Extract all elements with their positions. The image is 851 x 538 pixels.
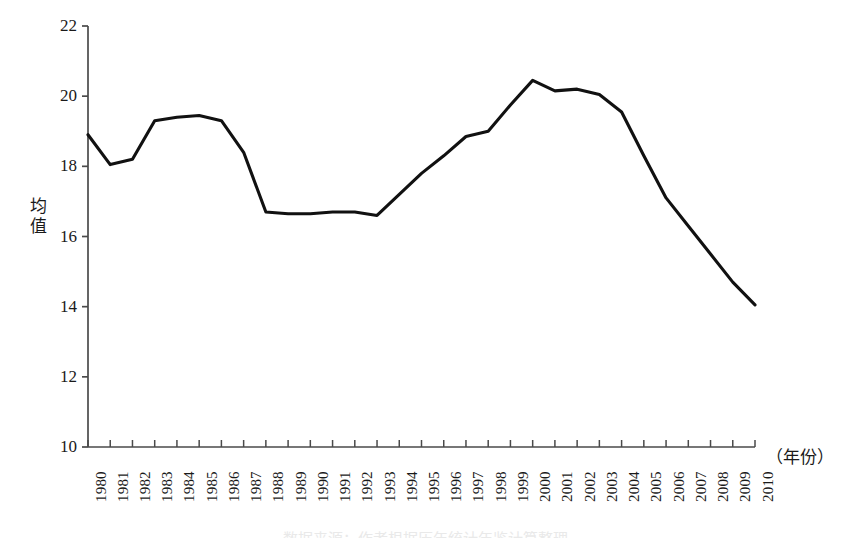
x-tick-label: 2002: [583, 471, 598, 502]
data-series-line: [88, 80, 755, 305]
x-tick-label: 1983: [160, 471, 175, 502]
x-tick-label: 1992: [360, 471, 375, 502]
figure-caption: 数据来源：作者根据历年统计年鉴计算整理: [0, 531, 851, 538]
x-tick-label: 1988: [271, 471, 286, 502]
x-axis-unit-label: （年份）: [766, 448, 834, 466]
x-tick-label: 2003: [605, 471, 620, 502]
y-tick-label: 14: [43, 298, 77, 315]
x-tick-label: 1995: [427, 471, 442, 502]
x-tick-label: 2000: [538, 471, 553, 502]
x-tick-label: 2001: [560, 471, 575, 502]
y-tick-label: 20: [43, 87, 77, 104]
x-tick-label: 2010: [761, 471, 776, 502]
x-tick-label: 1993: [383, 471, 398, 502]
x-tick-label: 1998: [494, 471, 509, 502]
chart-figure: 均 值 22201816141210 198019811982198319841…: [0, 0, 851, 538]
x-tick-label: 1986: [227, 471, 242, 502]
y-tick-label: 12: [43, 368, 77, 385]
x-tick-label: 1990: [316, 471, 331, 502]
x-tick-label: 2008: [716, 471, 731, 502]
x-tick-label: 1999: [516, 471, 531, 502]
chart-axes: [88, 26, 755, 447]
x-tick-label: 1981: [116, 471, 131, 502]
x-tick-label: 1997: [471, 471, 486, 502]
x-tick-label: 1980: [94, 471, 109, 502]
line-chart-plot: [0, 0, 851, 538]
x-tick-label: 1991: [338, 471, 353, 502]
x-tick-label: 1996: [449, 471, 464, 502]
chart-ticks: [82, 26, 755, 447]
x-tick-label: 1994: [405, 471, 420, 502]
x-tick-label: 2007: [694, 471, 709, 502]
x-tick-label: 2004: [627, 471, 642, 502]
x-tick-label: 1982: [138, 471, 153, 502]
x-tick-label: 2005: [649, 471, 664, 502]
x-tick-label: 1984: [182, 471, 197, 502]
y-tick-label: 10: [43, 438, 77, 455]
y-tick-label: 16: [43, 228, 77, 245]
y-tick-label: 22: [43, 17, 77, 34]
y-tick-label: 18: [43, 157, 77, 174]
x-tick-label: 2006: [672, 471, 687, 502]
x-tick-label: 1989: [294, 471, 309, 502]
x-tick-label: 2009: [738, 471, 753, 502]
x-tick-label: 1987: [249, 471, 264, 502]
x-tick-label: 1985: [205, 471, 220, 502]
